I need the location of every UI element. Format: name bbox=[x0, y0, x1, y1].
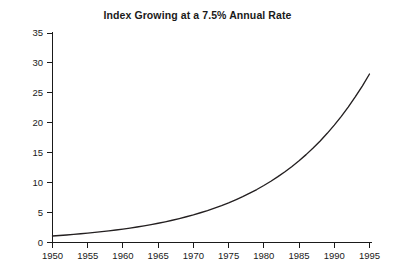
y-tick-label: 5 bbox=[38, 207, 43, 218]
index-growth-curve bbox=[53, 74, 370, 236]
y-tick-label: 35 bbox=[32, 27, 43, 38]
x-tick-label: 1955 bbox=[77, 250, 98, 261]
chart-container: Index Growing at a 7.5% Annual Rate 0510… bbox=[0, 0, 395, 275]
x-axis-ticks: 1950195519601965197019751980198519901995 bbox=[42, 243, 380, 262]
y-tick-label: 15 bbox=[32, 147, 43, 158]
y-tick-label: 30 bbox=[32, 57, 43, 68]
y-axis-ticks: 05101520253035 bbox=[32, 27, 52, 248]
y-tick-label: 20 bbox=[32, 117, 43, 128]
x-tick-label: 1980 bbox=[253, 250, 274, 261]
x-tick-label: 1950 bbox=[42, 250, 63, 261]
x-tick-label: 1985 bbox=[288, 250, 309, 261]
x-tick-label: 1975 bbox=[218, 250, 239, 261]
y-tick-label: 10 bbox=[32, 177, 43, 188]
y-tick-label: 0 bbox=[38, 237, 43, 248]
x-tick-label: 1965 bbox=[148, 250, 169, 261]
x-tick-label: 1960 bbox=[112, 250, 133, 261]
x-tick-label: 1970 bbox=[183, 250, 204, 261]
plot-area: 05101520253035 1950195519601965197019751… bbox=[0, 0, 395, 275]
x-tick-label: 1990 bbox=[324, 250, 345, 261]
y-tick-label: 25 bbox=[32, 87, 43, 98]
x-tick-label: 1995 bbox=[359, 250, 380, 261]
